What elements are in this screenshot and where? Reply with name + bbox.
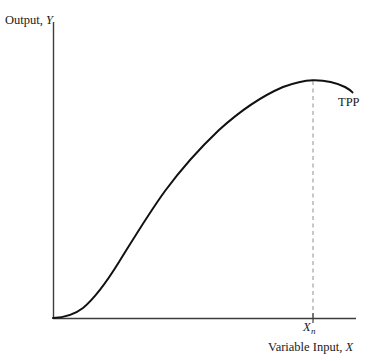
tpp-curve-label: TPP [338, 96, 360, 109]
chart-plot-area [0, 0, 370, 361]
x-axis-title-symbol: X [345, 340, 353, 354]
x-axis-title-prefix: Variable Input, [268, 340, 345, 354]
y-axis-title-prefix: Output, [5, 13, 46, 27]
xn-axis-label: Xn [303, 321, 315, 334]
tpp-curve-path [53, 80, 353, 318]
y-axis-title: Output, Y [5, 14, 53, 27]
xn-symbol: X [303, 320, 311, 334]
x-axis-title: Variable Input, X [268, 341, 353, 354]
tpp-production-function-chart: Output, Y Variable Input, X TPP Xn [0, 0, 370, 361]
y-axis-title-symbol: Y [46, 13, 53, 27]
xn-subscript: n [311, 326, 316, 336]
